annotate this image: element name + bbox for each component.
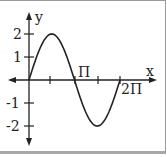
y-tick-label-minus-1: -1: [6, 95, 20, 111]
x-tick-label-2pi: 2Π: [121, 81, 142, 97]
y-tick-label-2: 2: [13, 26, 22, 42]
y-tick-label-1: 1: [13, 49, 22, 65]
y-axis-label: y: [34, 9, 43, 25]
x-axis-left-arrow-icon: [8, 77, 16, 83]
y-tick-label-minus-2: -2: [6, 118, 20, 134]
sine-chart: y x Π 2Π 2 1 -1 -2: [0, 0, 167, 157]
x-tick-label-pi: Π: [78, 64, 90, 80]
y-axis-up-arrow-icon: [26, 12, 32, 20]
x-axis-label: x: [146, 63, 154, 79]
y-axis-down-arrow-icon: [26, 138, 32, 146]
